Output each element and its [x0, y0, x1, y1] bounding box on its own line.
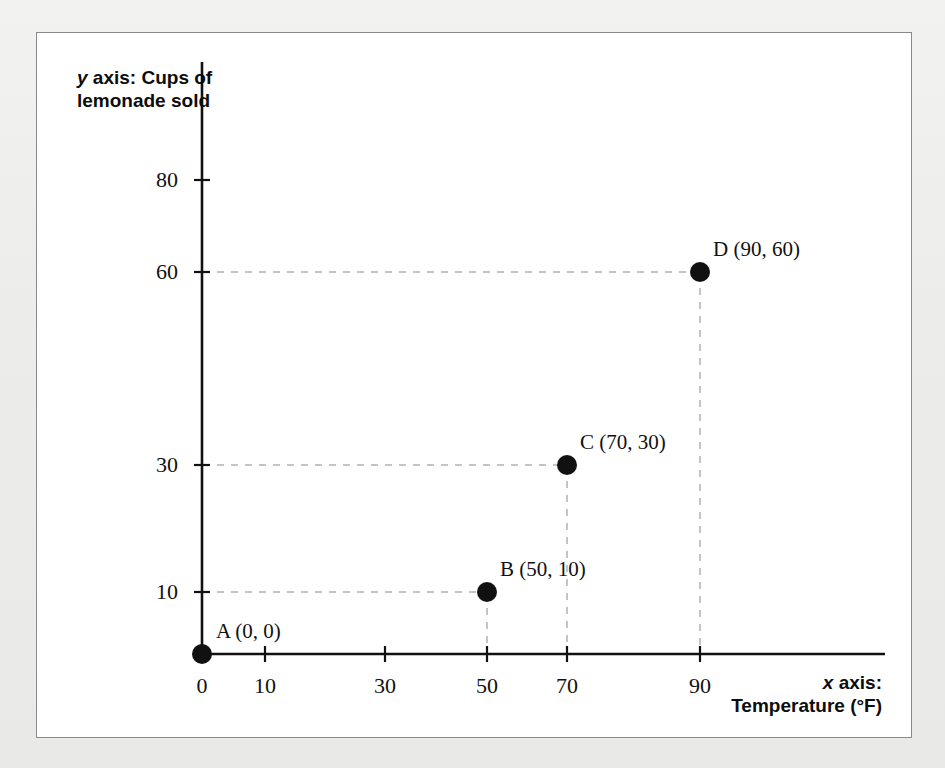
- x-tick-label-70: 70: [537, 673, 597, 699]
- x-axis-title-line2: Temperature (°F): [731, 695, 882, 716]
- data-point-d: [690, 262, 710, 282]
- x-tick-label-90: 90: [670, 673, 730, 699]
- data-point-c: [557, 455, 577, 475]
- y-axis-title-variable: y: [77, 67, 88, 88]
- x-tick-label-50: 50: [457, 673, 517, 699]
- y-tick-label-80: 80: [118, 167, 178, 193]
- data-point-a: [192, 644, 212, 664]
- y-tick-label-60: 60: [118, 259, 178, 285]
- data-point-label-b: B (50, 10): [500, 557, 586, 582]
- x-tick-label-10: 10: [235, 673, 295, 699]
- y-axis-title-line2: lemonade sold: [77, 90, 210, 111]
- data-point-b: [477, 582, 497, 602]
- x-tick-label-0: 0: [172, 673, 232, 699]
- y-axis-title: y axis: Cups oflemonade sold: [77, 66, 212, 112]
- data-point-label-a: A (0, 0): [216, 619, 281, 644]
- y-tick-label-30: 30: [118, 452, 178, 478]
- scatter-plot-canvas: [0, 0, 945, 768]
- x-axis-title-rest: axis:: [833, 672, 882, 693]
- x-axis-title: x axis:Temperature (°F): [730, 671, 882, 717]
- data-point-label-d: D (90, 60): [713, 237, 800, 262]
- x-tick-label-30: 30: [355, 673, 415, 699]
- y-tick-label-10: 10: [118, 579, 178, 605]
- data-point-label-c: C (70, 30): [580, 430, 666, 455]
- y-axis-title-rest: axis: Cups of: [88, 67, 213, 88]
- x-axis-title-variable: x: [823, 672, 834, 693]
